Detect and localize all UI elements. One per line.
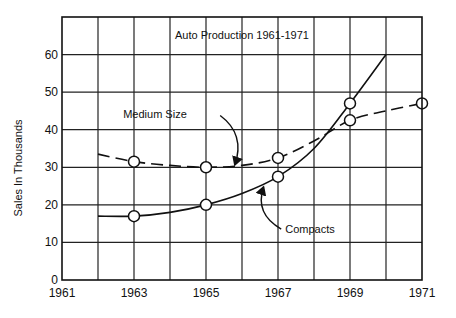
y-tick-label: 40 (45, 123, 59, 137)
x-tick-label: 1967 (265, 286, 292, 300)
data-point-medium-size (201, 162, 212, 173)
x-tick-label: 1971 (409, 286, 436, 300)
chart-title: Auto Production 1961-1971 (175, 29, 309, 41)
axes: 1961196319651967196919710102030405060 (45, 17, 436, 300)
y-tick-label: 50 (45, 85, 59, 99)
annotation-label-compacts: Compacts (285, 223, 335, 235)
data-point-medium-size (273, 152, 284, 163)
y-tick-label: 20 (45, 198, 59, 212)
y-tick-label: 30 (45, 160, 59, 174)
data-point-compacts (345, 98, 356, 109)
annotation-label-medium-size: Medium Size (123, 108, 187, 120)
y-tick-label: 60 (45, 48, 59, 62)
series-layer (98, 55, 422, 217)
y-tick-label: 10 (45, 235, 59, 249)
data-point-compacts (273, 171, 284, 182)
auto-production-chart: Medium SizeCompacts 19611963196519671969… (0, 0, 456, 318)
data-point-compacts (201, 199, 212, 210)
x-tick-label: 1965 (193, 286, 220, 300)
data-point-medium-size (345, 115, 356, 126)
y-tick-label: 0 (51, 273, 58, 287)
y-axis-label: Sales In Thousands (12, 119, 24, 217)
data-point-compacts (129, 211, 140, 222)
data-point-medium-size (129, 156, 140, 167)
annotation-arrow-medium-size (220, 115, 238, 165)
x-tick-label: 1963 (121, 286, 148, 300)
x-tick-label: 1961 (49, 286, 76, 300)
grid (62, 17, 422, 280)
x-tick-label: 1969 (337, 286, 364, 300)
annotation-layer: Medium SizeCompacts (123, 108, 335, 235)
